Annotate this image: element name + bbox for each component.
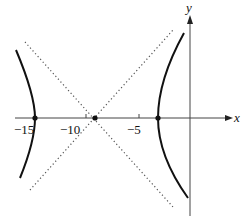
x-axis-arrow-icon <box>225 115 233 121</box>
hyperbola-right-branch <box>158 33 188 198</box>
x-axis-label: x <box>233 110 240 125</box>
asymptote-2 <box>30 30 173 190</box>
left-vertex-point <box>32 115 37 120</box>
hyperbola-left-branch <box>16 50 35 178</box>
hyperbola-graph: x y −15 −10 −5 <box>0 0 242 219</box>
right-vertex-point <box>155 115 160 120</box>
tick-label-m15: −15 <box>14 122 34 137</box>
tick-label-m10: −10 <box>60 122 80 137</box>
asymptote-1 <box>25 42 173 207</box>
tick-label-m5: −5 <box>127 122 141 137</box>
y-axis-label: y <box>184 0 192 15</box>
center-point <box>92 115 97 120</box>
y-axis-arrow-icon <box>187 15 193 24</box>
